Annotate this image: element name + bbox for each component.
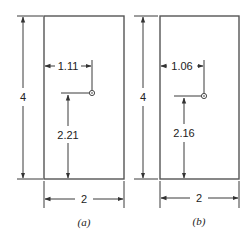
plate-outline-a: [44, 16, 124, 179]
height-label-a: 4: [20, 91, 26, 103]
caption-b: (b): [193, 215, 206, 228]
centroid-y-label-b: 2.16: [173, 127, 194, 139]
width-label-b: 2: [196, 192, 202, 204]
centroid-x-label-a: 1.11: [58, 60, 79, 72]
panel-a: 4 2 1.11 2.21 (a): [17, 16, 124, 229]
panel-b: 4 2 1.06 2.16 (b): [134, 16, 239, 228]
centroid-icon-b: [201, 93, 206, 98]
width-dimension-b: 2: [161, 192, 238, 204]
plate-outline-b: [160, 16, 239, 179]
centroid-icon-a: [89, 90, 94, 95]
centroid-diagram: 4 2 1.11 2.21 (a): [0, 0, 251, 241]
height-dimension-a: 4: [20, 17, 26, 178]
centroid-x-label-b: 1.06: [171, 60, 192, 72]
width-label-a: 2: [81, 193, 87, 205]
centroid-y-label-a: 2.21: [57, 129, 78, 141]
caption-a: (a): [78, 216, 91, 229]
height-dimension-b: 4: [140, 17, 146, 178]
height-label-b: 4: [140, 91, 146, 103]
width-dimension-a: 2: [45, 193, 123, 205]
